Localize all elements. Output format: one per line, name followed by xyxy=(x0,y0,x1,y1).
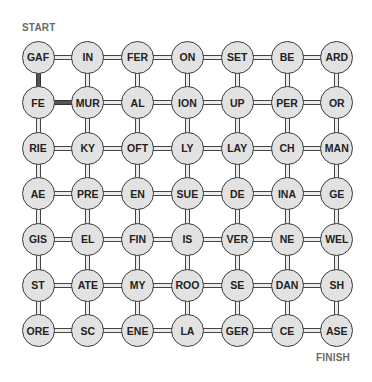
connector-horizontal xyxy=(302,237,323,242)
maze-node[interactable]: RIE xyxy=(22,132,55,165)
connector-horizontal xyxy=(152,237,173,242)
maze-node[interactable]: BE xyxy=(271,41,304,74)
connector-horizontal xyxy=(302,283,323,288)
maze-node[interactable]: MY xyxy=(121,269,154,302)
maze-node[interactable]: WEL xyxy=(320,223,353,256)
maze-node[interactable]: LY xyxy=(171,132,204,165)
connector-horizontal xyxy=(252,237,273,242)
connector-horizontal xyxy=(152,191,173,196)
maze-node[interactable]: IS xyxy=(171,223,204,256)
connector-horizontal xyxy=(53,283,74,288)
connector-horizontal xyxy=(152,328,173,333)
maze-node[interactable]: AL xyxy=(121,86,154,119)
connector-horizontal xyxy=(102,328,123,333)
connector-horizontal xyxy=(102,55,123,60)
connector-horizontal xyxy=(152,283,173,288)
connector-vertical xyxy=(235,254,240,271)
maze-node[interactable]: GAF xyxy=(22,41,55,74)
maze-node[interactable]: GE xyxy=(320,177,353,210)
maze-node[interactable]: IN xyxy=(71,41,104,74)
maze-node[interactable]: LAY xyxy=(221,132,254,165)
maze-node[interactable]: SH xyxy=(320,269,353,302)
maze-node[interactable]: GIS xyxy=(22,223,55,256)
connector-horizontal xyxy=(252,328,273,333)
connector-horizontal xyxy=(152,100,173,105)
maze-node[interactable]: PER xyxy=(271,86,304,119)
maze-node[interactable]: OFT xyxy=(121,132,154,165)
maze-node[interactable]: ASE xyxy=(320,314,353,347)
maze-node[interactable]: EL xyxy=(71,223,104,256)
connector-horizontal xyxy=(202,237,223,242)
maze-node[interactable]: ATE xyxy=(71,269,104,302)
connector-horizontal xyxy=(252,146,273,151)
connector-vertical xyxy=(185,254,190,271)
connector-horizontal xyxy=(152,146,173,151)
connector-horizontal xyxy=(302,328,323,333)
connector-horizontal xyxy=(302,191,323,196)
connector-horizontal xyxy=(302,100,323,105)
connector-horizontal xyxy=(53,328,74,333)
maze-node[interactable]: SC xyxy=(71,314,104,347)
connector-horizontal xyxy=(252,55,273,60)
maze-node[interactable]: DAN xyxy=(271,269,304,302)
maze-node[interactable]: SET xyxy=(221,41,254,74)
maze-node[interactable]: PRE xyxy=(71,177,104,210)
maze-node[interactable]: AE xyxy=(22,177,55,210)
connector-horizontal xyxy=(53,146,74,151)
maze-node[interactable]: FE xyxy=(22,86,55,119)
connector-horizontal xyxy=(252,191,273,196)
maze-node[interactable]: KY xyxy=(71,132,104,165)
connector-vertical xyxy=(36,254,41,271)
connector-horizontal xyxy=(102,146,123,151)
maze-node[interactable]: SE xyxy=(221,269,254,302)
maze-node[interactable]: DE xyxy=(221,177,254,210)
maze-node[interactable]: EN xyxy=(121,177,154,210)
connector-horizontal xyxy=(302,146,323,151)
maze-node[interactable]: NE xyxy=(271,223,304,256)
connector-horizontal xyxy=(102,191,123,196)
maze-node[interactable]: MUR xyxy=(71,86,104,119)
maze-node[interactable]: ON xyxy=(171,41,204,74)
connector-horizontal xyxy=(252,283,273,288)
maze-node[interactable]: GER xyxy=(221,314,254,347)
maze-node[interactable]: MAN xyxy=(320,132,353,165)
connector-horizontal xyxy=(252,100,273,105)
connector-horizontal xyxy=(152,55,173,60)
maze-node[interactable]: INA xyxy=(271,177,304,210)
maze-node[interactable]: ORE xyxy=(22,314,55,347)
maze-node[interactable]: OR xyxy=(320,86,353,119)
connector-horizontal xyxy=(102,100,123,105)
connector-horizontal xyxy=(202,146,223,151)
connector-horizontal xyxy=(202,55,223,60)
connector-vertical xyxy=(85,254,90,271)
maze-node[interactable]: ENE xyxy=(121,314,154,347)
connector-vertical xyxy=(135,254,140,271)
connector-horizontal xyxy=(53,55,74,60)
connector-horizontal xyxy=(202,100,223,105)
maze-node[interactable]: CE xyxy=(271,314,304,347)
connector-vertical xyxy=(285,254,290,271)
connector-horizontal xyxy=(102,237,123,242)
connector-horizontal xyxy=(202,283,223,288)
connector-horizontal xyxy=(202,191,223,196)
maze-node[interactable]: FIN xyxy=(121,223,154,256)
maze-node[interactable]: UP xyxy=(221,86,254,119)
maze-node[interactable]: FER xyxy=(121,41,154,74)
maze-node[interactable]: ION xyxy=(171,86,204,119)
maze-node[interactable]: CH xyxy=(271,132,304,165)
connector-horizontal xyxy=(53,100,74,105)
connector-horizontal xyxy=(202,328,223,333)
maze-node[interactable]: ROO xyxy=(171,269,204,302)
connector-vertical xyxy=(334,254,339,271)
connector-horizontal xyxy=(302,55,323,60)
connector-horizontal xyxy=(53,191,74,196)
maze-node[interactable]: VER xyxy=(221,223,254,256)
maze-node[interactable]: ARD xyxy=(320,41,353,74)
connector-horizontal xyxy=(53,237,74,242)
maze-node[interactable]: SUE xyxy=(171,177,204,210)
maze-node[interactable]: ST xyxy=(22,269,55,302)
maze-node[interactable]: LA xyxy=(171,314,204,347)
connector-horizontal xyxy=(102,283,123,288)
word-maze-board: GAFINFERONSETBEARDFEMURALIONUPPERORRIEKY… xyxy=(0,0,372,382)
